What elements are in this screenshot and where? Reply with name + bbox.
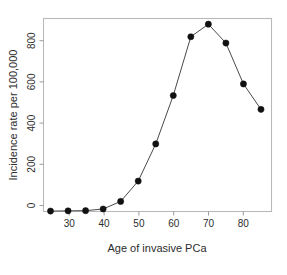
data-point: [223, 40, 229, 46]
x-tick-label: 70: [203, 218, 215, 229]
x-tick-label: 60: [168, 218, 180, 229]
data-point: [100, 206, 106, 212]
x-tick-label: 40: [99, 218, 111, 229]
data-point: [205, 21, 211, 27]
line-chart: 0 200 400 600 800 Incidence rate per 100…: [0, 0, 287, 275]
y-tick-label: 800: [26, 32, 37, 49]
data-point: [47, 208, 53, 214]
x-tick-labels: 30 40 50 60 70 80: [64, 218, 250, 229]
y-tick-labels: 0 200 400 600 800: [26, 32, 37, 208]
data-point: [65, 208, 71, 214]
y-axis-ticks: [40, 41, 44, 206]
series-markers: [47, 21, 264, 214]
chart-figure: 0 200 400 600 800 Incidence rate per 100…: [0, 0, 287, 275]
y-tick-label: 600: [26, 73, 37, 90]
data-point: [240, 81, 246, 87]
y-tick-label: 400: [26, 114, 37, 131]
y-tick-label: 200: [26, 156, 37, 173]
x-axis-ticks: [69, 212, 243, 216]
data-point: [118, 198, 124, 204]
x-tick-label: 80: [238, 218, 250, 229]
data-point: [135, 178, 141, 184]
data-point: [258, 106, 264, 112]
x-tick-label: 30: [64, 218, 76, 229]
data-point: [170, 92, 176, 98]
y-axis-title: Incidence rate per 100,000: [7, 50, 19, 181]
x-axis-title: Age of invasive PCa: [107, 242, 207, 254]
data-point: [188, 34, 194, 40]
series-line: [51, 24, 261, 211]
y-tick-label: 0: [26, 202, 37, 208]
x-tick-label: 50: [133, 218, 145, 229]
data-point: [153, 141, 159, 147]
data-point: [82, 208, 88, 214]
plot-frame: [44, 19, 272, 212]
